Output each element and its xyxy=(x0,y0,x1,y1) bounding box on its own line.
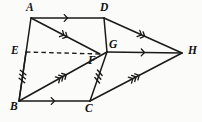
segment-DG xyxy=(104,18,107,52)
geometry-canvas xyxy=(0,0,202,122)
vertex-label-D: D xyxy=(100,2,108,14)
vertex-label-C: C xyxy=(85,103,93,115)
vertex-label-A: A xyxy=(26,2,34,14)
vertex-label-B: B xyxy=(10,101,18,113)
vertex-label-F: F xyxy=(88,55,96,67)
geometry-figure: ADEFGHBC xyxy=(0,0,202,122)
segments-layer xyxy=(19,18,182,101)
vertex-label-H: H xyxy=(188,45,197,57)
vertex-label-E: E xyxy=(11,45,19,57)
vertex-label-G: G xyxy=(109,39,117,51)
segment-AF xyxy=(31,18,100,54)
